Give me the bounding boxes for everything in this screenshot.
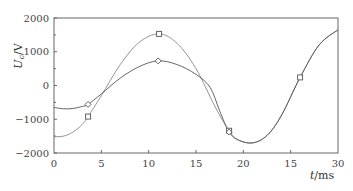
y-axis-ticks: 200010000−1000−2000 <box>15 13 57 159</box>
marker-layer <box>85 31 303 135</box>
y-tick-label: −2000 <box>15 148 49 159</box>
x-tick-label: 0 <box>51 158 57 169</box>
y-tick-label: 1000 <box>24 46 49 57</box>
diamond-marker <box>155 58 161 64</box>
x-tick-label: 15 <box>284 158 297 169</box>
y-axis-title: Uc/V <box>12 42 26 68</box>
y-tick-label: 2000 <box>24 13 49 24</box>
x-tick-label: 10 <box>142 158 155 169</box>
x-tick-label: 20 <box>237 158 250 169</box>
x-axis-title: t/ms <box>310 169 335 182</box>
x-tick-label: 15 <box>190 158 203 169</box>
square-marker <box>298 75 303 80</box>
x-tick-label: 5 <box>98 158 104 169</box>
square-marker <box>86 114 91 119</box>
y-tick-label: −1000 <box>15 114 49 125</box>
plot-frame <box>54 18 338 153</box>
x-tick-label: 30 <box>332 158 345 169</box>
line-chart: 051015201530 200010000−1000−2000 t/ms Uc… <box>0 0 353 191</box>
square-marker <box>157 31 162 36</box>
svg-text:Uc/V: Uc/V <box>12 42 26 68</box>
y-tick-label: 0 <box>43 80 49 91</box>
diamond-marker <box>85 101 91 107</box>
diamond-series-line <box>54 30 338 143</box>
series-layer <box>54 30 338 143</box>
